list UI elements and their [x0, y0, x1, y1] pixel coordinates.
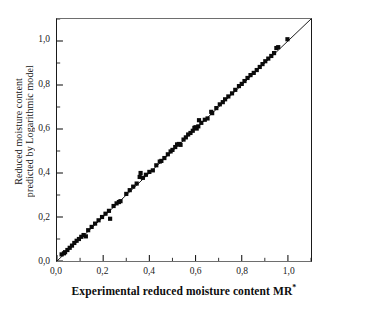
y-tick-label-3: 0,6 [10, 123, 50, 133]
data-point-marker [233, 88, 237, 92]
data-point-marker [162, 156, 166, 160]
x-tick-label-1: 0,2 [83, 266, 123, 276]
plot-area [56, 18, 312, 262]
data-point-marker [214, 106, 218, 110]
y-tick-label-4: 0,8 [10, 79, 50, 89]
x-axis-title-superscript: * [292, 283, 296, 292]
data-point-marker [276, 45, 280, 49]
y-tick-label-5: 1,0 [10, 34, 50, 44]
y-tick-label-2: 0,4 [10, 167, 50, 177]
chart-figure: Reduced moisture content predicted by Lo… [0, 0, 368, 312]
data-point-marker [151, 168, 155, 172]
data-point-marker [107, 209, 111, 213]
data-point-marker [108, 217, 112, 221]
x-tick-label-0: 0,0 [36, 266, 76, 276]
x-tick-label-4: 0,8 [222, 266, 262, 276]
y-tick-label-0: 0,0 [10, 256, 50, 266]
data-point-marker [84, 234, 88, 238]
data-point-marker [139, 171, 143, 175]
y-tick-label-1: 0,2 [10, 212, 50, 222]
data-point-marker [118, 199, 122, 203]
x-axis-title-text: Experimental reduced moisture content MR [72, 285, 293, 297]
data-point-marker [154, 163, 158, 167]
x-axis-title: Experimental reduced moisture content MR… [0, 283, 368, 297]
data-point-marker [205, 116, 209, 120]
x-tick-label-5: 1,0 [269, 266, 309, 276]
data-point-marker [135, 181, 139, 185]
data-point-marker [226, 94, 230, 98]
scatter-plot-canvas [57, 19, 311, 261]
data-point-marker [178, 143, 182, 147]
x-tick-label-2: 0,4 [129, 266, 169, 276]
x-tick-label-3: 0,6 [176, 266, 216, 276]
data-point-marker [272, 51, 276, 55]
data-point-marker [124, 192, 128, 196]
data-point-marker [285, 37, 289, 41]
data-point-marker [210, 111, 214, 115]
